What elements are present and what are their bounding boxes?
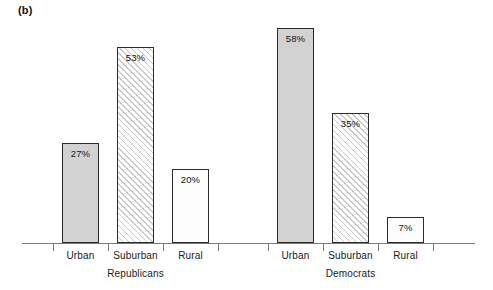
plot-area: 27%Urban53%Suburban20%Rural58%Urban35%Su… — [0, 0, 493, 290]
bar-democrats-suburban: 35% — [332, 113, 369, 243]
x-axis-line — [22, 243, 475, 244]
bar-democrats-rural: 7% — [387, 217, 424, 243]
category-label-suburban: Suburban — [108, 250, 163, 261]
bar-republicans-suburban: 53% — [117, 47, 154, 243]
category-label-rural: Rural — [163, 250, 218, 261]
category-label-suburban: Suburban — [323, 250, 378, 261]
axis-tick — [433, 243, 434, 251]
category-label-rural: Rural — [378, 250, 433, 261]
bar-value-label: 27% — [63, 148, 98, 159]
bar-value-label: 7% — [388, 222, 423, 233]
bar-value-label: 53% — [118, 52, 153, 63]
group-label-democrats: Democrats — [237, 268, 464, 279]
bar-republicans-rural: 20% — [172, 169, 209, 243]
bar-chart-figure: (b) 27%Urban53%Suburban20%Rural58%Urban3… — [0, 0, 493, 290]
bar-value-label: 20% — [173, 174, 208, 185]
bar-value-label: 35% — [333, 118, 368, 129]
axis-tick — [218, 243, 219, 251]
group-label-republicans: Republicans — [22, 268, 249, 279]
bar-republicans-urban: 27% — [62, 143, 99, 243]
category-label-urban: Urban — [268, 250, 323, 261]
category-label-urban: Urban — [53, 250, 108, 261]
bar-democrats-urban: 58% — [277, 28, 314, 243]
bar-value-label: 58% — [278, 33, 313, 44]
